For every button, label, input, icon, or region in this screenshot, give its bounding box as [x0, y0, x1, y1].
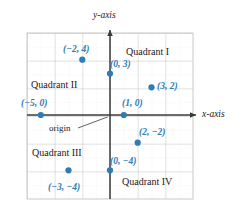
point-marker: [79, 57, 85, 63]
point-label-1-0: (1, 0): [122, 99, 143, 109]
x-axis-label: x-axis: [202, 110, 225, 120]
quadrant-3-label: Quadrant III: [32, 148, 82, 158]
quadrant-1-label: Quadrant I: [126, 47, 169, 57]
quadrant-4-label: Quadrant IV: [122, 177, 172, 187]
point-label-0-3: (0, 3): [110, 60, 131, 70]
point-marker: [38, 112, 44, 118]
point-marker: [107, 167, 113, 173]
coordinate-plane-figure: y-axis x-axis origin Quadrant I Quadrant…: [0, 0, 242, 219]
point-marker: [148, 84, 154, 90]
point-marker: [65, 167, 71, 173]
point-label-neg3-neg4: (−3, −4): [48, 183, 80, 193]
point-marker: [107, 70, 113, 76]
point-label-neg2-4: (−2, 4): [63, 45, 89, 55]
point-marker: [135, 140, 141, 146]
origin-label: origin: [49, 124, 71, 133]
point-marker: [121, 112, 127, 118]
point-label-3-2: (3, 2): [157, 82, 178, 92]
y-axis-label: y-axis: [93, 11, 116, 21]
point-label-2-neg2: (2, −2): [139, 128, 165, 138]
quadrant-2-label: Quadrant II: [31, 80, 77, 90]
point-label-0-neg4: (0, −4): [110, 157, 136, 167]
point-label-neg5-0: (−5, 0): [21, 99, 47, 109]
